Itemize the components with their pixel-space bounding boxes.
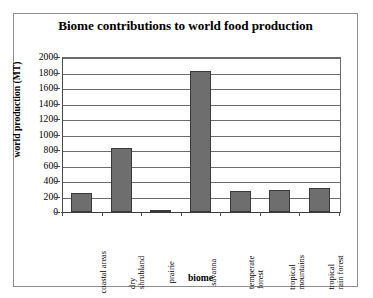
bar-temperate-forest [230,191,251,212]
y-axis-tick-label: 200 [14,192,58,201]
x-axis-tick-mark [339,212,340,216]
x-axis-title: biome [62,272,339,283]
y-axis-tick-mark [55,212,60,213]
y-axis-tick-label: 1000 [14,130,58,139]
y-axis-tick-mark [55,88,60,89]
y-axis-tick-mark [55,119,60,120]
bar-series [62,57,339,212]
x-axis-label: coastal areas [62,216,102,272]
y-axis-tick-label: 400 [14,176,58,185]
x-axis-label: temperateforest [220,216,260,272]
y-axis-tick-label: 600 [14,161,58,170]
bar-tropical-mountains [269,190,290,212]
y-axis-tick-mark [55,57,60,58]
bar-savanna [190,71,211,212]
y-axis-tick-label: 0 [14,207,58,216]
x-axis-labels: coastal areasdryshrublandprairiesavannat… [62,216,339,274]
y-axis-tick-label: 800 [14,145,58,154]
y-axis-tick-label: 1600 [14,83,58,92]
y-axis-tick-label: 1800 [14,68,58,77]
bar-dry-shrubland [111,148,132,212]
y-axis-tick-mark [55,73,60,74]
bar-tropical-rain-forest [309,188,330,212]
y-axis-tick-label: 1400 [14,99,58,108]
y-axis-tick-mark [55,150,60,151]
y-axis-tick-mark [55,166,60,167]
x-axis-label: tropicalmountains [260,216,300,272]
y-axis-tick-mark [55,197,60,198]
y-axis-tick-mark [55,104,60,105]
x-axis-label: dryshrubland [102,216,142,272]
x-axis-label: savanna [181,216,221,272]
x-axis-label: tropicalrain forest [299,216,339,272]
y-axis-tick-label: 2000 [14,52,58,61]
x-axis-label: prairie [141,216,181,272]
y-axis-tick-mark [55,181,60,182]
y-axis-tick-mark [55,135,60,136]
y-axis-tick-label: 1200 [14,114,58,123]
bar-coastal-areas [71,193,92,212]
chart-title: Biome contributions to world food produc… [13,18,358,34]
y-axis-tick-group: 2000180016001400120010008006004002000 [0,57,58,212]
